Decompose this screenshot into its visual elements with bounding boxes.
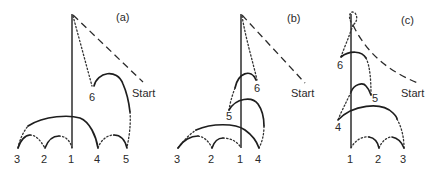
arc-6-to-5-a [94, 74, 130, 112]
start-label-b: Start [291, 87, 314, 99]
dotted-3-2-a [30, 135, 45, 148]
arc-3-b [178, 136, 198, 148]
dotted-to-4-b [259, 126, 264, 148]
arc-5-c [351, 84, 371, 95]
dotted-2-3-c [379, 137, 392, 148]
start-label-c: Start [401, 87, 424, 99]
label-5-a: 5 [123, 153, 129, 165]
label-4-a: 4 [94, 153, 100, 165]
arc-4-big-c [338, 106, 397, 120]
figure-diagram: 3 2 1 4 5 6 Start (a) 3 2 1 4 5 6 Start … [0, 0, 442, 175]
dotted-to-5-a [127, 112, 130, 147]
label-2-c: 2 [375, 153, 381, 165]
arc-big-a [28, 116, 98, 148]
label-4-c: 4 [335, 121, 341, 133]
dotted-5-4-c [338, 92, 351, 120]
label-4-b: 4 [255, 153, 261, 165]
arc-3-c [392, 137, 404, 148]
arc-6-c [341, 52, 366, 58]
label-2-a: 2 [41, 153, 47, 165]
label-1-c: 1 [347, 153, 353, 165]
label-3-a: 3 [14, 153, 20, 165]
label-6-c: 6 [337, 59, 343, 71]
label-5-b: 5 [226, 110, 232, 122]
start-label-a: Start [132, 87, 155, 99]
label-3-b: 3 [174, 153, 180, 165]
label-6-b: 6 [254, 82, 260, 94]
panel-c: 1 2 3 4 5 6 Start (c) [335, 12, 424, 165]
label-6-a: 6 [89, 91, 95, 103]
start-path-a [73, 15, 143, 82]
start-path-b [242, 15, 305, 83]
panel-label-b: (b) [287, 12, 300, 24]
dotted-2-1-a [59, 136, 72, 148]
panel-label-a: (a) [116, 11, 129, 23]
arc-2-a [45, 136, 59, 148]
label-3-c: 3 [400, 153, 406, 165]
label-1-a: 1 [68, 153, 74, 165]
arc-5-a [114, 135, 127, 148]
arc-2-b [212, 138, 223, 148]
arc-2-c [369, 137, 379, 148]
dotted-3-2-b [198, 136, 212, 148]
panel-b: 3 2 1 4 5 6 Start (b) [174, 12, 314, 165]
arc-5-4-b [229, 99, 264, 126]
dotted-top-to-6-a [73, 16, 92, 86]
dotted-1-2-c [351, 137, 369, 148]
dotted-top-to-6-b [242, 16, 257, 80]
dotted-4-5-a [98, 135, 114, 148]
arc-big-b [196, 125, 259, 148]
label-5-c: 5 [372, 92, 378, 104]
arc-6-b [235, 73, 256, 88]
panel-label-c: (c) [401, 14, 414, 26]
label-2-b: 2 [208, 153, 214, 165]
dotted-2-1-b [223, 138, 241, 148]
label-1-b: 1 [237, 153, 243, 165]
panel-a: 3 2 1 4 5 6 Start (a) [14, 11, 155, 165]
dotted-big-to-3-c [397, 119, 404, 148]
